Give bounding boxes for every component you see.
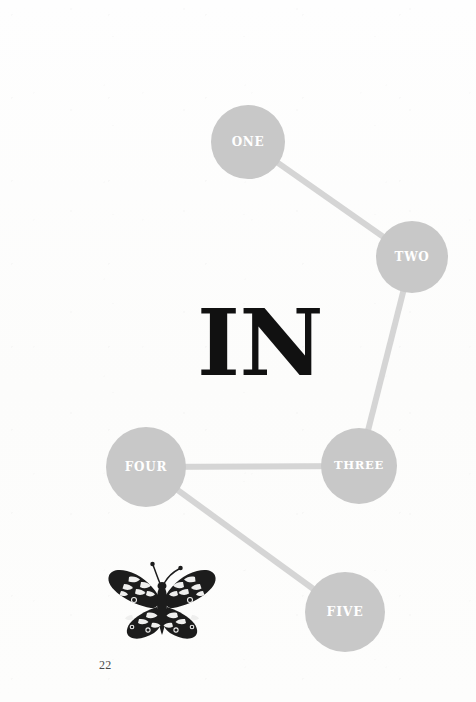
graph-node-five[interactable]: FIVE [305,572,385,652]
node-label-five: FIVE [327,606,364,619]
book-page: ONE TWO THREE FOUR FIVE IN [0,0,476,702]
graph-node-two[interactable]: TWO [376,221,448,293]
page-number: 22 [99,658,111,673]
node-label-three: THREE [334,460,384,472]
node-label-one: ONE [232,136,265,148]
graph-node-one[interactable]: ONE [211,105,285,179]
node-label-two: TWO [394,251,429,263]
graph-node-three[interactable]: THREE [321,428,397,504]
graph-node-four[interactable]: FOUR [106,427,186,507]
page-headline: IN [197,297,323,389]
node-label-four: FOUR [125,461,167,473]
butterfly-icon [99,560,225,648]
